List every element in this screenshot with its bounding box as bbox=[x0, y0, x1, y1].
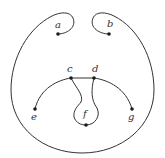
label-g: g bbox=[128, 111, 134, 122]
label-d: d bbox=[92, 63, 98, 74]
point-f bbox=[84, 123, 88, 127]
label-b: b bbox=[107, 18, 113, 29]
curves-group bbox=[11, 13, 154, 153]
path-d-f-curve bbox=[86, 78, 98, 125]
label-c: c bbox=[67, 63, 73, 74]
label-e: e bbox=[31, 111, 37, 122]
point-b bbox=[107, 32, 111, 36]
diagram-canvas: abcdefg bbox=[0, 0, 165, 158]
label-a: a bbox=[55, 19, 61, 30]
label-f: f bbox=[82, 108, 89, 119]
point-d bbox=[92, 76, 96, 80]
point-c bbox=[69, 76, 73, 80]
labels-group: abcdefg bbox=[31, 18, 134, 122]
outer-loop-curve bbox=[11, 13, 154, 153]
arc-e-g-curve bbox=[35, 78, 132, 109]
point-a bbox=[56, 32, 60, 36]
